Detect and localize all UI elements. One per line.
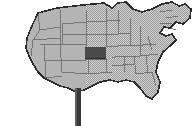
map-stand-pole-highlight <box>75 88 77 126</box>
map-thumbnail-graphic: Small grayscale clip-art map of the cont… <box>0 0 193 126</box>
us-map-svg <box>0 0 193 126</box>
highlighted-state <box>85 47 106 59</box>
